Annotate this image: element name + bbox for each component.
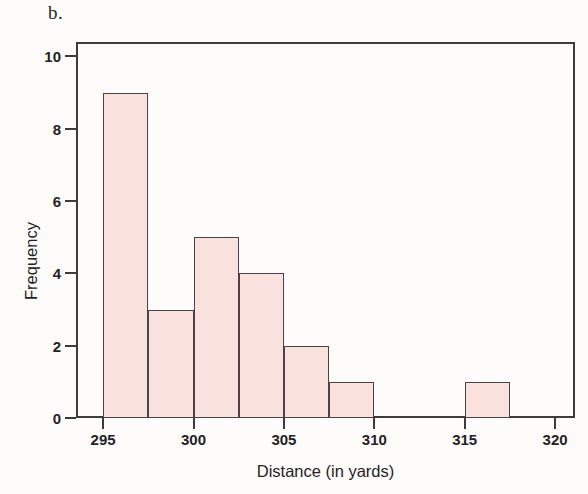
y-axis-tick [65, 55, 76, 57]
histogram-bar [103, 93, 148, 418]
x-axis-tick [554, 418, 556, 429]
plot-area [76, 42, 575, 418]
x-axis-tick-label: 310 [344, 432, 404, 447]
x-axis-tick [193, 418, 195, 429]
x-axis-tick-label: 305 [254, 432, 314, 447]
y-axis-tick-label: 6 [53, 194, 61, 209]
x-axis-label: Distance (in yards) [76, 462, 575, 481]
y-axis-tick [65, 345, 76, 347]
y-axis-tick-label: 0 [53, 411, 61, 426]
y-axis-tick [65, 417, 76, 419]
y-axis-tick-label: 10 [44, 49, 61, 64]
histogram-bar [284, 346, 329, 418]
histogram-bar [329, 382, 374, 418]
x-axis-tick [102, 418, 104, 429]
histogram-bar [148, 310, 193, 418]
histogram-bar [239, 273, 284, 418]
y-axis-tick [65, 200, 76, 202]
x-axis-tick-label: 300 [164, 432, 224, 447]
y-axis-label: Frequency [22, 100, 41, 300]
x-axis-tick [373, 418, 375, 429]
x-axis-tick [283, 418, 285, 429]
y-axis-tick-label: 8 [53, 122, 61, 137]
x-axis-tick [464, 418, 466, 429]
histogram-figure: b. 0246810 295300305310315320 Frequency … [0, 0, 588, 494]
x-axis-tick-label: 315 [435, 432, 495, 447]
x-axis-tick-label: 320 [525, 432, 585, 447]
panel-letter: b. [48, 2, 63, 24]
histogram-bar [465, 382, 510, 418]
histogram-bar [194, 237, 239, 418]
y-axis-tick [65, 272, 76, 274]
y-axis-tick-label: 4 [53, 266, 61, 281]
y-axis-tick-label: 2 [53, 339, 61, 354]
y-axis-tick [65, 128, 76, 130]
x-axis-tick-label: 295 [73, 432, 133, 447]
